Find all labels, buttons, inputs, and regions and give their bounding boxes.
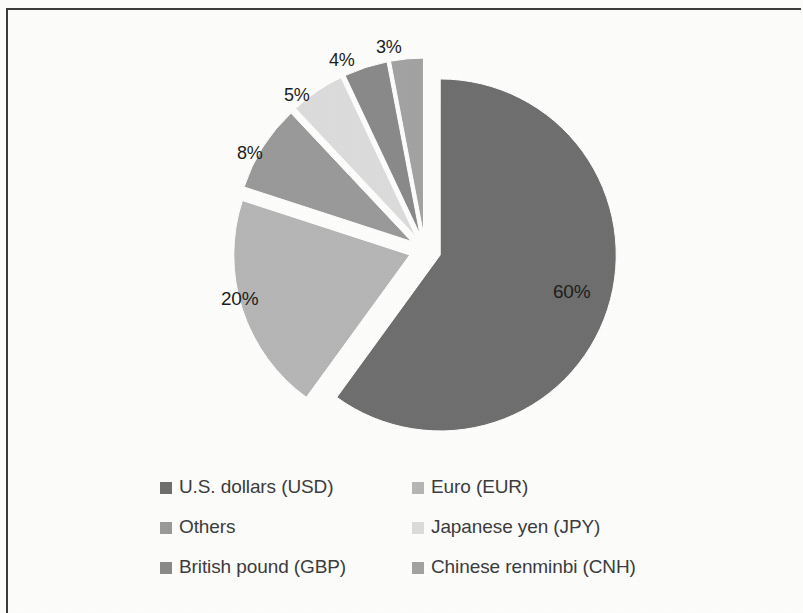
legend-item-usd[interactable]: U.S. dollars (USD) bbox=[160, 474, 412, 500]
legend-label: Euro (EUR) bbox=[431, 476, 528, 498]
slice-label-jpy: 5% bbox=[284, 85, 310, 106]
legend-row: British pound (GBP) Chinese renminbi (CN… bbox=[160, 554, 700, 594]
legend-label: British pound (GBP) bbox=[179, 556, 346, 578]
legend-label: Japanese yen (JPY) bbox=[431, 516, 600, 538]
legend-swatch-icon bbox=[412, 482, 424, 494]
legend-swatch-icon bbox=[412, 562, 424, 574]
slice-label-others: 8% bbox=[237, 143, 263, 164]
slice-label-eur: 20% bbox=[221, 288, 258, 310]
legend-swatch-icon bbox=[160, 482, 172, 494]
pie-chart-svg bbox=[0, 0, 803, 455]
chart-legend: U.S. dollars (USD) Euro (EUR) Others Jap… bbox=[160, 474, 700, 594]
slice-label-gbp: 4% bbox=[329, 50, 355, 71]
legend-label: Others bbox=[179, 516, 235, 538]
legend-row: U.S. dollars (USD) Euro (EUR) bbox=[160, 474, 700, 514]
legend-item-others[interactable]: Others bbox=[160, 514, 412, 540]
legend-swatch-icon bbox=[412, 522, 424, 534]
slice-label-cnh: 3% bbox=[376, 37, 402, 58]
pie-slice-group bbox=[234, 58, 616, 431]
legend-item-gbp[interactable]: British pound (GBP) bbox=[160, 554, 412, 580]
legend-label: U.S. dollars (USD) bbox=[179, 476, 333, 498]
legend-item-cnh[interactable]: Chinese renminbi (CNH) bbox=[412, 554, 692, 580]
slice-label-usd: 60% bbox=[553, 281, 590, 303]
legend-swatch-icon bbox=[160, 562, 172, 574]
legend-label: Chinese renminbi (CNH) bbox=[431, 556, 636, 578]
legend-item-eur[interactable]: Euro (EUR) bbox=[412, 474, 692, 500]
pie-chart: 60% 20% 8% 5% 4% 3% bbox=[0, 0, 803, 455]
legend-swatch-icon bbox=[160, 522, 172, 534]
legend-row: Others Japanese yen (JPY) bbox=[160, 514, 700, 554]
legend-item-jpy[interactable]: Japanese yen (JPY) bbox=[412, 514, 692, 540]
